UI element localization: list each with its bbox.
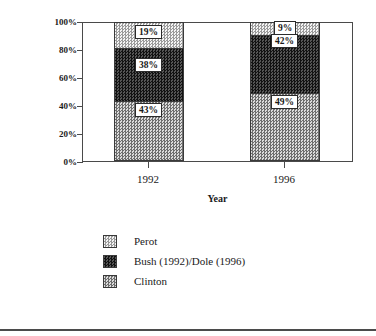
bar-label-1996-dole: 42% <box>271 34 298 48</box>
figure-container: Percentage of Total Vote 0% 20% 40% 60% … <box>0 0 376 336</box>
y-tick-label-40: 40% <box>42 100 82 112</box>
bar-segment-1992-bush <box>114 48 184 102</box>
x-tick-mark-1996 <box>284 162 285 168</box>
legend-label-perot: Perot <box>134 233 157 250</box>
bar-1996: 49% 42% 9% <box>250 22 320 161</box>
legend-label-bush-dole: Bush (1992)/Dole (1996) <box>134 253 245 270</box>
plot-area: 43% 38% 19% 49% 42% 9% <box>82 22 353 162</box>
bar-label-1996-perot: 9% <box>274 21 296 35</box>
y-tick-label-20: 20% <box>42 128 82 140</box>
bar-label-1996-clinton: 49% <box>271 95 298 109</box>
x-tick-mark-1992 <box>148 162 149 168</box>
legend-label-clinton: Clinton <box>134 273 167 290</box>
legend-swatch-bush-dole <box>103 255 117 268</box>
y-tick-label-60: 60% <box>42 72 82 84</box>
legend-swatch-clinton <box>103 275 117 288</box>
bar-label-1992-bush: 38% <box>135 58 162 72</box>
y-tick-label-80: 80% <box>42 44 82 56</box>
x-tick-label-1992: 1992 <box>118 172 178 186</box>
y-tick-mark-0 <box>77 162 83 163</box>
x-tick-label-1996: 1996 <box>254 172 314 186</box>
y-tick-label-0: 0% <box>42 156 82 168</box>
bar-1992: 43% 38% 19% <box>114 22 184 161</box>
legend-swatch-perot <box>103 235 117 248</box>
page-bottom-rule <box>0 329 376 331</box>
bar-label-1992-clinton: 43% <box>135 103 162 117</box>
y-tick-label-100: 100% <box>42 16 82 28</box>
x-axis-title: Year <box>82 192 353 205</box>
bar-label-1992-perot: 19% <box>135 25 162 39</box>
